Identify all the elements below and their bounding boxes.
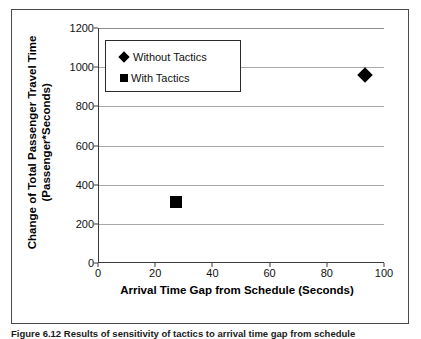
figure-frame: Change of Total Passenger Travel Time (P…: [11, 9, 409, 324]
gridline: [99, 146, 384, 147]
y-axis-tick-label: 1200: [70, 22, 94, 34]
y-axis-tick-label: 1000: [70, 61, 94, 73]
y-axis-tick-label: 600: [76, 140, 94, 152]
data-point-square: [170, 196, 182, 208]
y-axis-tick-labels: 020040060080010001200: [58, 28, 94, 263]
gridline: [99, 185, 384, 186]
y-axis-title-line-1: Change of Total Passenger Travel Time: [25, 22, 39, 262]
x-axis-title: Arrival Time Gap from Schedule (Seconds): [72, 284, 402, 296]
data-point-diamond: [357, 67, 373, 83]
y-axis-title-line-2: (Passenger*Seconds): [39, 22, 53, 262]
legend-label-without-tactics: Without Tactics: [133, 51, 207, 63]
plot-right-edge: [383, 28, 385, 262]
figure-caption: Figure 6.12 Results of sensitivity of ta…: [11, 328, 411, 339]
square-marker-icon: [120, 74, 128, 82]
y-axis-title: Change of Total Passenger Travel Time (P…: [25, 22, 54, 262]
legend-label-with-tactics: With Tactics: [131, 72, 189, 84]
diamond-marker-icon: [118, 51, 129, 62]
legend-entry-with-tactics: With Tactics: [120, 67, 240, 88]
x-axis-tick-labels: 020406080100: [98, 267, 384, 283]
y-axis-tick-label: 400: [76, 179, 94, 191]
y-axis-tick-label: 800: [76, 100, 94, 112]
x-axis-tick-label: 20: [149, 267, 161, 279]
x-axis-tick-label: 40: [206, 267, 218, 279]
x-axis-tick-label: 0: [95, 267, 101, 279]
gridline: [99, 224, 384, 225]
x-axis-tick-label: 80: [321, 267, 333, 279]
x-axis-tick-label: 60: [263, 267, 275, 279]
x-axis-tick-label: 100: [375, 267, 393, 279]
gridline: [99, 28, 384, 29]
gridline: [99, 106, 384, 107]
legend-entry-without-tactics: Without Tactics: [120, 46, 240, 67]
chart-legend: Without Tactics With Tactics: [105, 40, 241, 92]
y-axis-tick-label: 200: [76, 218, 94, 230]
